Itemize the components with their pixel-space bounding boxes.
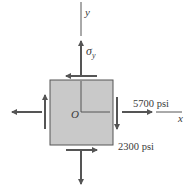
sigma-x-value-label: 5700 psi bbox=[133, 98, 169, 109]
origin-label: O bbox=[71, 108, 79, 120]
tau-value-label: 2300 psi bbox=[118, 141, 154, 152]
sigma-y-label: σy bbox=[86, 44, 96, 60]
y-axis-label: y bbox=[84, 6, 90, 18]
x-axis-label: x bbox=[177, 112, 183, 124]
stress-element-diagram: y σy O 5700 psi x 2300 psi bbox=[0, 0, 195, 194]
